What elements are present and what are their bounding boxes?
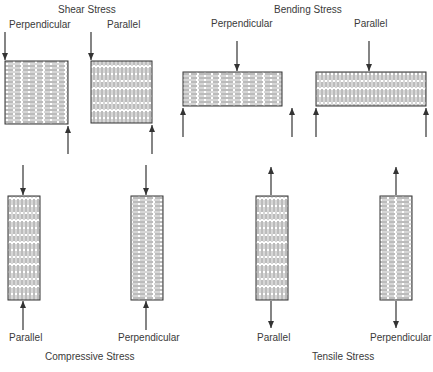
- tensile-parallel-specimen: [256, 167, 288, 328]
- shear-parallel-specimen: [91, 32, 152, 154]
- bending-parallel-specimen: [316, 41, 426, 137]
- stress-diagram: [0, 0, 433, 372]
- bending-perpendicular-specimen: [183, 41, 292, 137]
- tensile-perpendicular-specimen: [380, 167, 412, 328]
- shear-perpendicular-specimen: [5, 32, 68, 154]
- compressive-perpendicular-specimen: [131, 165, 163, 330]
- compressive-parallel-specimen: [8, 165, 40, 330]
